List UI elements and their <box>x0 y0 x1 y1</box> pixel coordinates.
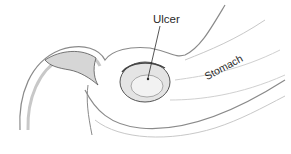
stomach-drawing <box>0 0 291 154</box>
pylorus-wall <box>87 85 92 135</box>
gastric-fold <box>185 20 265 60</box>
gastric-fold <box>170 75 285 100</box>
ulcer-pointer-dot <box>147 78 149 80</box>
ulcer-label: Ulcer <box>153 13 180 25</box>
ulcer-base <box>131 75 163 97</box>
lower-wall-outline <box>85 80 285 129</box>
stomach-ulcer-illustration: Ulcer Stomach <box>0 0 291 154</box>
left-fold <box>45 51 98 85</box>
lower-wall-fold <box>95 96 285 137</box>
